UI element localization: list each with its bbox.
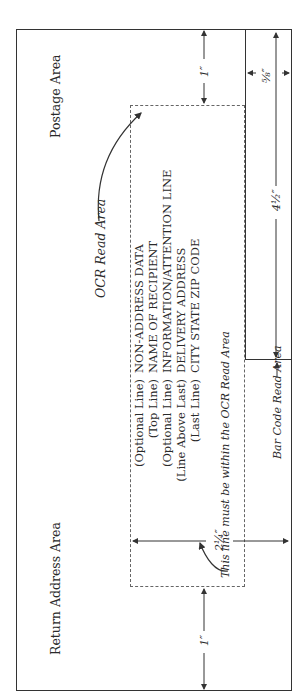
- dimension-arrows: [16, 29, 292, 691]
- envelope-diagram: Return Address Area Postage Area OCR Rea…: [16, 29, 292, 691]
